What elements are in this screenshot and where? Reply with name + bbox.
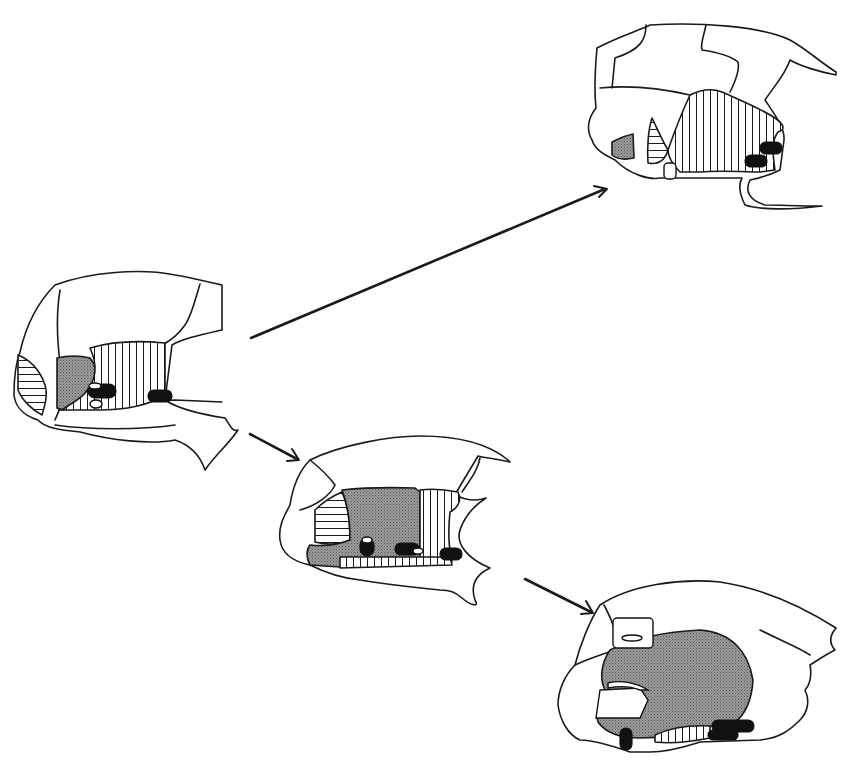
figure-canvas xyxy=(0,0,866,779)
panel-middle xyxy=(280,436,510,605)
panel-top-right xyxy=(589,24,836,209)
arrow-left-to-middle xyxy=(250,434,299,461)
arrow-left-to-top-right xyxy=(251,186,607,338)
panel-bottom-right xyxy=(558,581,836,752)
panel-left xyxy=(14,272,238,470)
arrow-middle-to-bottom-right xyxy=(525,579,593,614)
white-block-upper xyxy=(613,618,653,648)
